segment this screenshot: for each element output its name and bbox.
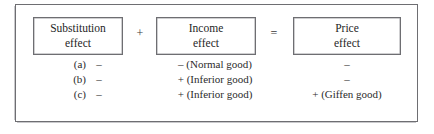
row-price-effect: – <box>293 72 401 87</box>
row-substitution-effect: – <box>92 57 106 72</box>
substitution-effect-line1: Substitution <box>34 21 122 36</box>
income-effect-line1: Income <box>157 21 255 36</box>
row-price-effect: – <box>293 57 401 72</box>
income-effect-box: Income effect <box>156 17 256 55</box>
row-label: (a) <box>56 57 86 72</box>
substitution-effect-line2: effect <box>34 36 122 51</box>
table-row: (b) – + (Inferior good) – <box>16 72 419 87</box>
row-substitution-effect: – <box>92 87 106 102</box>
row-label: (b) <box>56 72 86 87</box>
outer-frame: Substitution effect + Income effect = Pr… <box>15 4 418 122</box>
price-effect-box: Price effect <box>293 17 401 55</box>
table-row: (a) – – (Normal good) – <box>16 57 419 72</box>
row-income-effect: – (Normal good) <box>156 57 274 72</box>
row-price-effect: + (Giffen good) <box>293 87 401 102</box>
row-label: (c) <box>56 87 86 102</box>
price-effect-line2: effect <box>294 36 400 51</box>
row-substitution-effect: – <box>92 72 106 87</box>
figure-container: Substitution effect + Income effect = Pr… <box>0 0 434 134</box>
row-income-effect: + (Inferior good) <box>156 87 274 102</box>
equation-box-row: Substitution effect + Income effect = Pr… <box>16 5 419 55</box>
price-effect-line1: Price <box>294 21 400 36</box>
income-effect-line2: effect <box>157 36 255 51</box>
plus-operator: + <box>133 27 147 39</box>
substitution-effect-box: Substitution effect <box>33 17 123 55</box>
row-income-effect: + (Inferior good) <box>156 72 274 87</box>
table-row: (c) – + (Inferior good) + (Giffen good) <box>16 87 419 102</box>
equals-operator: = <box>267 27 281 39</box>
case-rows: (a) – – (Normal good) – (b) – + (Inferio… <box>16 57 419 102</box>
